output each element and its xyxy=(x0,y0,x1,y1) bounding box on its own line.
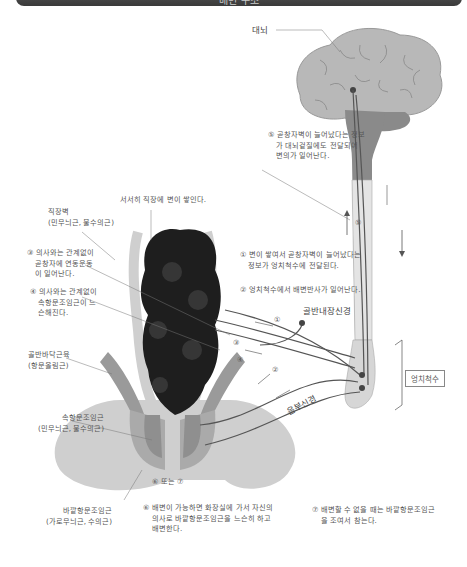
marker-4: ④ xyxy=(237,355,243,366)
label-step7: ⑦ 배변할 수 없을 때는 바깥항문조임근 을 조여서 참는다. xyxy=(312,505,435,526)
marker-2: ② xyxy=(272,365,278,376)
label-step3: ③ 의사와는 관계없이 곧창자에 연동운동 이 일어난다. xyxy=(27,248,94,280)
diagram-art xyxy=(0,0,467,567)
label-rectal-wall: 직장벽 (민무늬근, 불수의근) xyxy=(48,207,114,228)
label-step4: ④ 의사와는 관계없이 속항문조임근이 느 슨해진다. xyxy=(30,287,97,319)
label-step6-or-7: ⑥ 또는 ⑦ xyxy=(152,477,183,488)
label-step1: ① 변이 쌓여서 곧창자벽이 늘어났다는 정보가 엉치척수에 전달된다. xyxy=(240,250,361,271)
label-pelvic-splanchnic-nerve: 골반내장신경 xyxy=(303,306,351,317)
label-step5: ⑤ 곧창자벽이 늘어났다는 정보 가 대뇌겉질에도 전달되어 변의가 일어난다. xyxy=(268,130,365,162)
label-pelvic-floor-muscle: 골반바닥근육 (항문올림근) xyxy=(28,350,70,371)
marker-3: ③ xyxy=(233,338,239,349)
label-sacral-spinal-cord: 엉치척수 xyxy=(405,370,445,387)
label-step2: ② 엉치척수에서 배변반사가 일어난다. xyxy=(240,285,361,296)
label-internal-anal-sphincter: 속항문조임근 (민무늬근, 불수의근) xyxy=(38,413,104,434)
label-step6: ⑥ 배변이 가능하면 화장실에 가서 자신의 의사로 바깥항문조임근을 느슨히 … xyxy=(143,503,273,535)
label-cerebrum: 대뇌 xyxy=(252,25,268,36)
label-stool-accumulates: 서서히 직장에 변이 쌓인다. xyxy=(120,195,206,206)
label-external-anal-sphincter: 바깥항문조임근 (가로무늬근, 수의근) xyxy=(46,506,112,527)
marker-1: ① xyxy=(274,315,280,326)
marker-5: ⑤ xyxy=(355,218,361,229)
